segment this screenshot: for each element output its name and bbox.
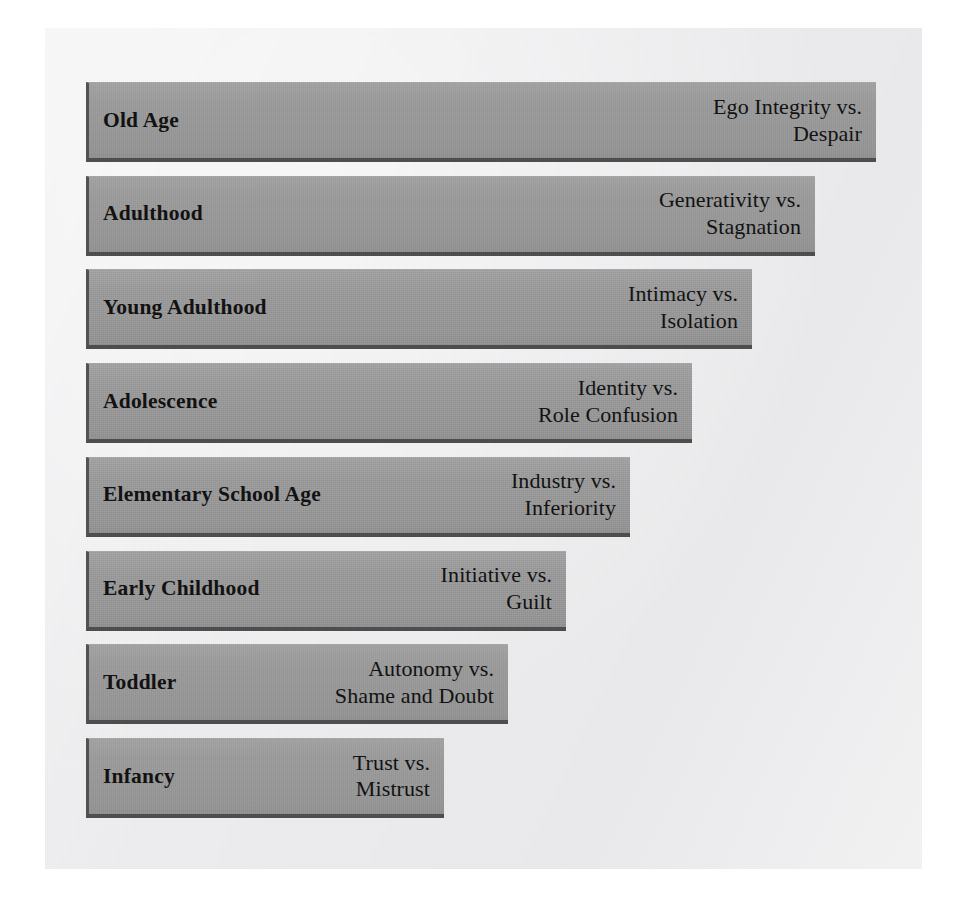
stage-bar[interactable]: AdolescenceIdentity vs. Role Confusion [86,363,692,443]
stage-bar[interactable]: Early ChildhoodInitiative vs. Guilt [86,551,566,631]
scanned-page-background: Old AgeEgo Integrity vs. DespairAdulthoo… [45,28,922,869]
stage-age-label: Early Childhood [89,577,260,601]
stage-crisis-label: Trust vs. Mistrust [353,750,444,804]
stage-bar[interactable]: Old AgeEgo Integrity vs. Despair [86,82,876,162]
stage-bar[interactable]: AdulthoodGenerativity vs. Stagnation [86,176,815,256]
stage-crisis-label: Industry vs. Inferiority [511,468,630,522]
stage-crisis-label: Autonomy vs. Shame and Doubt [335,656,508,710]
stage-age-label: Old Age [89,109,179,133]
stage-row: Early ChildhoodInitiative vs. Guilt [86,551,566,645]
stage-row: InfancyTrust vs. Mistrust [86,738,444,832]
stage-row: AdulthoodGenerativity vs. Stagnation [86,176,815,270]
stage-age-label: Toddler [89,671,177,695]
stage-crisis-label: Initiative vs. Guilt [441,562,566,616]
stage-row: Young AdulthoodIntimacy vs. Isolation [86,269,752,363]
stage-list: Old AgeEgo Integrity vs. DespairAdulthoo… [86,82,886,832]
stage-age-label: Young Adulthood [89,296,267,320]
stage-crisis-label: Ego Integrity vs. Despair [713,94,876,148]
stage-age-label: Adulthood [89,202,203,226]
figure-root: Old AgeEgo Integrity vs. DespairAdulthoo… [0,0,962,910]
stage-bar[interactable]: ToddlerAutonomy vs. Shame and Doubt [86,644,508,724]
stage-row: Old AgeEgo Integrity vs. Despair [86,82,876,176]
stage-age-label: Adolescence [89,390,217,414]
stage-crisis-label: Intimacy vs. Isolation [628,281,752,335]
stage-bar[interactable]: Young AdulthoodIntimacy vs. Isolation [86,269,752,349]
stage-row: ToddlerAutonomy vs. Shame and Doubt [86,644,508,738]
stage-crisis-label: Identity vs. Role Confusion [538,375,692,429]
stage-age-label: Infancy [89,765,175,789]
stage-crisis-label: Generativity vs. Stagnation [659,187,815,241]
stage-row: Elementary School AgeIndustry vs. Inferi… [86,457,630,551]
stage-bar[interactable]: InfancyTrust vs. Mistrust [86,738,444,818]
stage-bar[interactable]: Elementary School AgeIndustry vs. Inferi… [86,457,630,537]
stage-row: AdolescenceIdentity vs. Role Confusion [86,363,692,457]
stage-age-label: Elementary School Age [89,483,321,507]
